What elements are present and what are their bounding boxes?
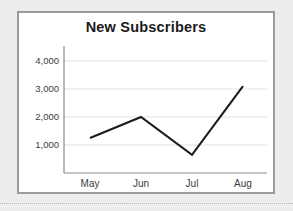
y-tick-label-4000: 4,000 [35,55,59,66]
x-tick-label-aug: Aug [234,178,252,189]
x-tick-labels: May Jun Jul Aug [81,178,252,189]
y-tick-labels: 4,000 3,000 2,000 1,000 [35,55,59,150]
plot-area: 4,000 3,000 2,000 1,000 May Jun Jul Aug [19,13,273,192]
y-tick-label-2000: 2,000 [35,111,59,122]
bottom-separator [0,203,293,204]
x-tick-label-jun: Jun [133,178,149,189]
line-chart-svg: 4,000 3,000 2,000 1,000 May Jun Jul Aug [19,13,273,192]
page-background: New Subscribers 4,000 3,000 2 [0,0,293,211]
gridlines [64,61,267,145]
x-tick-label-may: May [81,178,100,189]
y-tick-label-1000: 1,000 [35,139,59,150]
y-tick-label-3000: 3,000 [35,83,59,94]
chart-card: New Subscribers 4,000 3,000 2 [17,11,275,194]
x-tick-label-jul: Jul [186,178,199,189]
